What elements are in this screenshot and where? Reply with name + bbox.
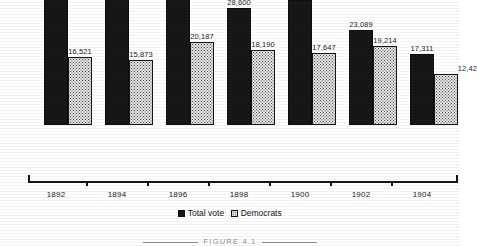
bar-value-label: 18,190 — [251, 40, 275, 49]
bar-value-label: 15,873 — [129, 50, 153, 59]
x-axis-tick — [147, 181, 149, 186]
legend-item-total-vote: Total vote — [178, 208, 224, 218]
figure-caption: FIGURE 4.1 — [0, 238, 460, 246]
bar-total-vote-1894: 32,226 — [105, 0, 129, 125]
legend-label-democrats: Democrats — [241, 208, 282, 218]
bar-democrats-1896: 20,187 — [190, 42, 214, 125]
caption-rule-right — [262, 242, 317, 243]
x-tick-label-1898: 1898 — [212, 190, 266, 200]
legend-item-democrats: Democrats — [231, 208, 282, 218]
bar-total-vote-1900: 30,630 — [288, 0, 312, 125]
chart-legend: Total vote Democrats — [0, 208, 460, 218]
bar-value-label: 20,187 — [190, 32, 214, 41]
bar-value-label: 19,214 — [373, 36, 397, 45]
x-axis-line — [28, 181, 458, 183]
bar-value-label: 17,647 — [312, 43, 336, 52]
caption-text: FIGURE 4.1 — [204, 238, 257, 246]
bar-value-label: 28,600 — [227, 0, 251, 7]
bar-democrats-1894: 15,873 — [129, 60, 153, 125]
legend-label-total-vote: Total vote — [188, 208, 224, 218]
bar-total-vote-1892: 31,310 — [44, 0, 68, 125]
bar-democrats-1898: 18,190 — [251, 50, 275, 125]
caption-rule-left — [143, 242, 198, 243]
bar-democrats-1904: 12,42 — [434, 74, 458, 125]
x-tick-label-1904: 1904 — [395, 190, 449, 200]
x-axis-tick — [391, 181, 393, 186]
bar-total-vote-1904: 17,311 — [410, 54, 434, 125]
chart-plot-area: 31,310 16,521 1892 32,226 15,873 1894 — [0, 0, 460, 190]
bar-value-label: 16,521 — [68, 47, 92, 56]
bar-democrats-1892: 16,521 — [68, 57, 92, 125]
x-tick-label-1902: 1902 — [334, 190, 388, 200]
x-axis-tick — [330, 181, 332, 186]
bar-total-vote-1902: 23,089 — [349, 30, 373, 125]
x-tick-label-1892: 1892 — [29, 190, 83, 200]
stippled-square-icon — [231, 210, 238, 217]
bar-democrats-1900: 17,647 — [312, 53, 336, 125]
x-tick-label-1896: 1896 — [151, 190, 205, 200]
x-axis-tick — [208, 181, 210, 186]
bar-total-vote-1898: 28,600 — [227, 8, 251, 125]
bar-value-label: 17,311 — [411, 44, 434, 53]
bar-value-label: 12,42 — [458, 64, 477, 73]
x-axis-start-cap — [28, 175, 30, 183]
x-tick-label-1900: 1900 — [273, 190, 327, 200]
x-axis-end-cap — [456, 175, 458, 183]
bar-value-label: 23,089 — [349, 20, 373, 29]
x-axis-tick — [269, 181, 271, 186]
bar-democrats-1902: 19,214 — [373, 46, 397, 125]
x-axis-tick — [86, 181, 88, 186]
x-tick-label-1894: 1894 — [90, 190, 144, 200]
bar-total-vote-1896: 37,367 — [166, 0, 190, 125]
filled-square-icon — [178, 210, 185, 217]
